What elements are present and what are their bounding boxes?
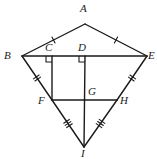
segment-DI	[84, 56, 85, 147]
vertex-label-G: G	[88, 86, 96, 97]
vertex-label-C: C	[45, 42, 52, 53]
vertex-label-H: H	[120, 95, 128, 106]
vertex-label-E: E	[148, 50, 155, 61]
right-angle-mark-C	[46, 56, 52, 62]
geometry-figure: A B C D E F G H I	[0, 0, 157, 159]
segment-BF	[22, 56, 52, 100]
vertex-label-A: A	[80, 3, 87, 14]
vertex-label-D: D	[78, 42, 86, 53]
vertex-label-B: B	[4, 50, 11, 61]
geometry-diagram	[0, 0, 157, 159]
right-angle-mark-D	[79, 56, 85, 62]
vertex-label-I: I	[81, 148, 85, 159]
vertex-label-F: F	[38, 95, 45, 106]
